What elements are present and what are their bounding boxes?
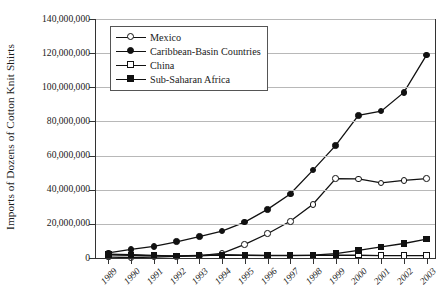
x-axis-tick-mark	[336, 259, 337, 264]
data-point-marker	[423, 52, 430, 59]
legend-marker-swatch	[116, 59, 146, 71]
x-axis-tick-mark	[108, 259, 109, 264]
data-point-marker	[219, 252, 225, 258]
data-point-marker	[401, 89, 408, 96]
line-chart: Imports of Dozens of Cotton Knit Shirts …	[0, 0, 446, 305]
y-axis-tick-mark	[89, 121, 95, 122]
x-axis-tick-mark	[245, 259, 246, 264]
legend-item: Mexico	[116, 30, 262, 44]
x-axis-tick-mark	[268, 259, 269, 264]
x-axis-tick-label: 1992	[161, 266, 189, 294]
y-axis-tick-label: 100,000,000	[18, 82, 90, 92]
data-point-marker	[401, 240, 407, 246]
data-point-marker	[264, 206, 271, 213]
gridline	[95, 224, 436, 225]
data-point-marker	[241, 241, 248, 248]
x-axis-tick-label: 1997	[274, 266, 302, 294]
x-axis-tick-mark	[177, 259, 178, 264]
legend-item-label: Sub-Saharan Africa	[146, 74, 230, 85]
x-axis-line	[95, 258, 436, 259]
y-axis-line	[95, 19, 96, 259]
y-axis-tick-label: 80,000,000	[18, 116, 90, 126]
x-axis-tick-mark	[290, 259, 291, 264]
x-axis-tick-label: 1994	[206, 266, 234, 294]
legend-item: Caribbean-Basin Countries	[116, 44, 262, 58]
data-point-marker	[355, 112, 362, 119]
y-axis-tick-label: 40,000,000	[18, 184, 90, 194]
x-axis-tick-mark	[427, 259, 428, 264]
x-axis-tick-label: 1995	[229, 266, 257, 294]
x-axis-tick-label: 2000	[343, 266, 371, 294]
chart-legend: MexicoCaribbean-Basin CountriesChinaSub-…	[110, 26, 268, 91]
legend-item-label: Caribbean-Basin Countries	[146, 46, 261, 57]
x-axis-tick-label: 1990	[115, 266, 143, 294]
data-point-marker	[196, 233, 203, 240]
data-point-marker	[287, 218, 294, 225]
data-point-marker	[355, 247, 361, 253]
x-axis-tick-label: 1993	[183, 266, 211, 294]
y-axis-tick-mark	[89, 190, 95, 191]
x-axis-tick-label: 1999	[320, 266, 348, 294]
gridline	[95, 156, 436, 157]
x-axis-tick-mark	[154, 259, 155, 264]
x-axis-tick-mark	[404, 259, 405, 264]
legend-marker-icon	[127, 75, 134, 82]
legend-marker-icon	[127, 33, 134, 40]
y-axis-tick-labels: 020,000,00040,000,00060,000,00080,000,00…	[18, 0, 90, 305]
data-point-marker	[333, 250, 339, 256]
y-axis-tick-mark	[89, 258, 95, 259]
y-axis-tick-label: 20,000,000	[18, 218, 90, 228]
x-axis-tick-mark	[358, 259, 359, 264]
x-axis-tick-mark	[313, 259, 314, 264]
y-axis-tick-label: 60,000,000	[18, 150, 90, 160]
legend-marker-swatch	[116, 31, 146, 43]
plot-right-border	[435, 19, 436, 259]
x-axis-tick-mark	[131, 259, 132, 264]
x-axis-tick-mark	[222, 259, 223, 264]
y-axis-tick-mark	[89, 156, 95, 157]
legend-marker-swatch	[116, 73, 146, 85]
x-axis-tick-mark	[381, 259, 382, 264]
x-axis-tick-mark	[199, 259, 200, 264]
x-axis-tick-label: 1989	[93, 266, 121, 294]
data-point-marker	[332, 175, 339, 182]
legend-marker-icon	[127, 47, 134, 54]
data-point-marker	[355, 176, 362, 183]
data-point-marker	[264, 230, 271, 237]
data-point-marker	[401, 177, 408, 184]
data-point-marker	[173, 238, 180, 245]
y-axis-tick-mark	[89, 87, 95, 88]
gridline	[95, 19, 436, 20]
legend-item-label: Mexico	[146, 32, 181, 43]
data-point-marker	[423, 175, 430, 182]
data-point-marker	[332, 142, 339, 149]
legend-item: Sub-Saharan Africa	[116, 72, 262, 86]
y-axis-tick-label: 120,000,000	[18, 48, 90, 58]
data-point-marker	[287, 191, 294, 198]
x-axis-tick-label: 1998	[297, 266, 325, 294]
y-axis-tick-mark	[89, 224, 95, 225]
gridline	[95, 121, 436, 122]
data-point-marker	[151, 243, 158, 250]
legend-marker-icon	[127, 61, 134, 68]
x-axis-tick-label: 1996	[252, 266, 280, 294]
y-axis-tick-mark	[89, 53, 95, 54]
data-point-marker	[128, 252, 134, 258]
y-axis-tick-mark	[89, 19, 95, 20]
x-axis-tick-label: 2001	[365, 266, 393, 294]
data-point-marker	[423, 236, 429, 242]
data-point-marker	[310, 201, 317, 208]
legend-item: China	[116, 58, 262, 72]
y-axis-tick-label: 140,000,000	[18, 14, 90, 24]
y-axis-title: Imports of Dozens of Cotton Knit Shirts	[2, 2, 18, 272]
data-point-marker	[378, 244, 384, 250]
legend-marker-swatch	[116, 45, 146, 57]
x-axis-tick-label: 1991	[138, 266, 166, 294]
x-axis-tick-label: 2003	[411, 266, 439, 294]
x-axis-tick-label: 2002	[388, 266, 416, 294]
gridline	[95, 190, 436, 191]
data-point-marker	[105, 251, 111, 257]
y-axis-tick-label: 0	[18, 253, 90, 263]
legend-item-label: China	[146, 60, 174, 71]
